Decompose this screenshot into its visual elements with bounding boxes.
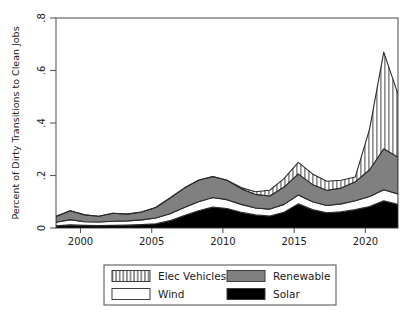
legend-label-solar: Solar	[273, 288, 300, 300]
y-tick-label-02: .2	[36, 171, 47, 181]
chart-figure: 0 .2 .4 .6 .8 Percent of Dirty Transitio…	[0, 0, 420, 318]
legend-swatch-solar	[227, 289, 265, 300]
y-tick-label-0: 0	[36, 225, 47, 231]
x-tick-label-2015: 2015	[281, 236, 306, 247]
x-tick-label-2000: 2000	[68, 236, 93, 247]
chart-legend: Elec Vehicles Wind Renewable Solar	[104, 265, 336, 305]
legend-label-renewable: Renewable	[273, 270, 330, 282]
stacked-area-chart: 0 .2 .4 .6 .8 Percent of Dirty Transitio…	[0, 0, 420, 318]
x-tick-label-2020: 2020	[353, 236, 378, 247]
legend-swatch-wind	[112, 289, 150, 300]
y-tick-label-04: .4	[36, 118, 47, 128]
legend-swatch-elec-vehicles	[112, 271, 150, 282]
legend-swatch-renewable	[227, 271, 265, 282]
y-tick-label-06: .6	[36, 66, 47, 76]
legend-label-elec-vehicles: Elec Vehicles	[158, 270, 226, 282]
x-tick-label-2010: 2010	[210, 236, 235, 247]
legend-label-wind: Wind	[158, 288, 184, 300]
y-axis-title: Percent of Dirty Transitions to Clean Jo…	[10, 26, 21, 219]
x-tick-label-2005: 2005	[139, 236, 164, 247]
y-tick-label-08: .8	[36, 13, 47, 23]
